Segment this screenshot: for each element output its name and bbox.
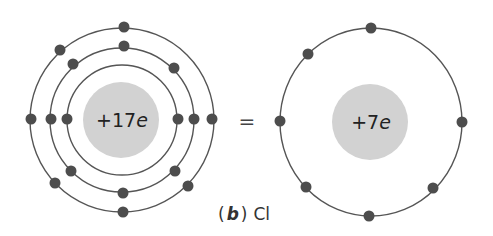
electron (364, 211, 375, 222)
electron (303, 49, 314, 60)
electron (62, 114, 73, 125)
electron (26, 114, 37, 125)
electron (275, 116, 286, 127)
electron (366, 23, 377, 34)
right-atom: +7e (275, 23, 468, 222)
left-atom: +17e (26, 22, 218, 218)
electron (170, 166, 181, 177)
electron (118, 207, 129, 218)
electron (301, 182, 312, 193)
electron (55, 45, 66, 56)
chlorine-atom-diagram: +17e = +7e (b)Cl (0, 0, 493, 236)
electron (50, 178, 61, 189)
electron (428, 183, 439, 194)
electron (183, 181, 194, 192)
electron (119, 41, 130, 52)
electron (189, 114, 200, 125)
electron (207, 114, 218, 125)
electron (118, 188, 129, 199)
left-nucleus-charge: +17e (96, 109, 148, 131)
electron (46, 114, 57, 125)
electron (119, 22, 130, 33)
electron (66, 166, 77, 177)
right-nucleus-charge: +7e (351, 111, 391, 133)
electron (169, 63, 180, 74)
electron (457, 117, 468, 128)
electron (68, 59, 79, 70)
equals-sign: = (239, 109, 256, 133)
electron (173, 114, 184, 125)
figure-caption: (b)Cl (218, 204, 270, 224)
